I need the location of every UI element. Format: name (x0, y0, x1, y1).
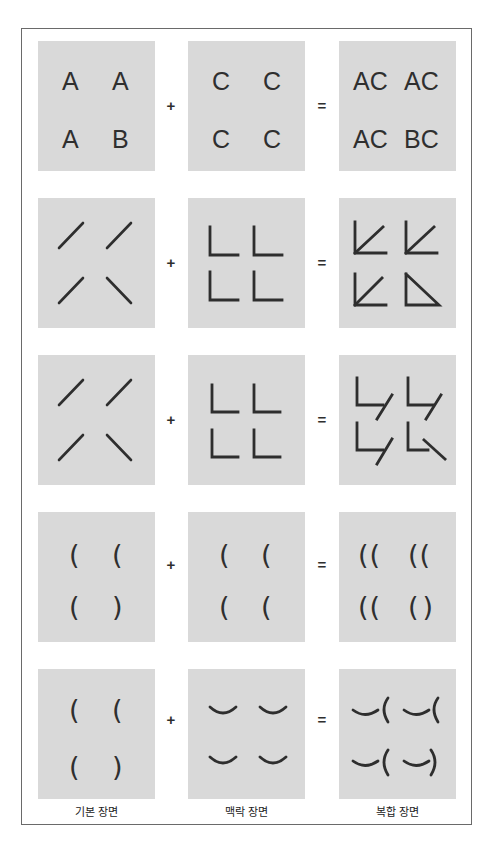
equals-operator: = (312, 555, 332, 575)
row4-composite-panel: (( (( (( () (339, 512, 456, 642)
row2-context-panel (188, 198, 305, 328)
cell: (( (408, 541, 431, 568)
cell: A (62, 69, 79, 94)
l-corner-icon (188, 355, 305, 485)
cell: ( (261, 593, 272, 620)
plus-operator: + (161, 96, 181, 116)
row1-base-panel: A A A B (38, 41, 155, 171)
cell: () (408, 593, 437, 620)
column-label-composite: 복합 장면 (339, 803, 456, 819)
column-label-base: 기본 장면 (38, 803, 155, 819)
row4-context-panel: ( ( ( ( (188, 512, 305, 642)
cell: C (212, 69, 230, 94)
cell: ( (219, 541, 230, 568)
cell: B (112, 127, 129, 152)
cell: ( (69, 593, 80, 620)
plus-operator: + (161, 555, 181, 575)
cell: ( (112, 696, 123, 723)
row2-base-panel (38, 198, 155, 328)
slash-lines-icon (38, 198, 155, 328)
l-offset-slash-icon (339, 355, 456, 485)
equals-operator: = (312, 710, 332, 730)
arc-paren-icon (339, 669, 456, 799)
cell: C (212, 127, 230, 152)
row2-composite-panel (339, 198, 456, 328)
arrow-triangle-icon (339, 198, 456, 328)
plus-operator: + (161, 710, 181, 730)
cell: C (263, 69, 281, 94)
row5-composite-panel (339, 669, 456, 799)
cell: ( (69, 541, 80, 568)
cell: A (112, 69, 129, 94)
cell: BC (404, 127, 439, 152)
cell: ( (219, 593, 230, 620)
row1-context-panel: C C C C (188, 41, 305, 171)
row1-composite-panel: AC AC AC BC (339, 41, 456, 171)
cell: C (263, 127, 281, 152)
cell: A (62, 127, 79, 152)
cell: ) (112, 593, 123, 620)
l-corner-icon (188, 198, 305, 328)
plus-operator: + (161, 410, 181, 430)
row4-base-panel: ( ( ( ) (38, 512, 155, 642)
cell: AC (353, 127, 388, 152)
row3-composite-panel (339, 355, 456, 485)
row5-context-panel (188, 669, 305, 799)
row3-base-panel (38, 355, 155, 485)
column-label-context: 맥락 장면 (188, 803, 305, 819)
cell: ( (112, 541, 123, 568)
cell: ) (112, 753, 123, 780)
plus-operator: + (161, 253, 181, 273)
cell: ( (69, 753, 80, 780)
slash-lines-icon (38, 355, 155, 485)
equals-operator: = (312, 410, 332, 430)
equals-operator: = (312, 96, 332, 116)
row3-context-panel (188, 355, 305, 485)
cell: ( (261, 541, 272, 568)
cell: AC (353, 69, 388, 94)
equals-operator: = (312, 253, 332, 273)
arc-icon (188, 669, 305, 799)
cell: AC (404, 69, 439, 94)
cell: (( (358, 541, 381, 568)
cell: ( (69, 696, 80, 723)
row5-base-panel: ( ( ( ) (38, 669, 155, 799)
cell: (( (358, 593, 381, 620)
